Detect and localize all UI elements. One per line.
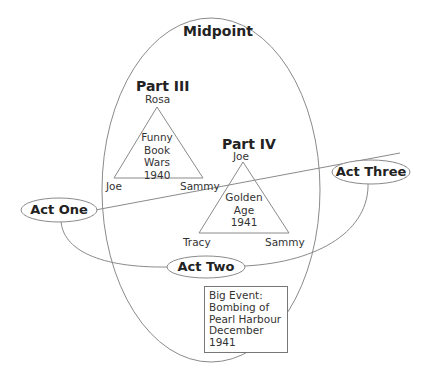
part4-center-line: Age — [224, 204, 264, 217]
act-two-label: Act Two — [167, 259, 245, 274]
part3-center-line: Funny — [138, 131, 176, 144]
midpoint-label: Midpoint — [183, 23, 253, 39]
act-one-to-act-two-curve — [61, 220, 168, 267]
part4-left-character: Tracy — [183, 236, 211, 248]
part3-center-line: Wars — [138, 156, 176, 169]
part4-center-line: 1941 — [224, 216, 264, 229]
act-one-label: Act One — [21, 202, 97, 217]
part4-center-line: Golden — [224, 191, 264, 204]
part3-left-character: Joe — [106, 180, 122, 192]
part4-top-character: Joe — [233, 150, 249, 162]
act-three-label: Act Three — [332, 164, 410, 179]
part4-center-text: Golden Age 1941 — [224, 191, 264, 229]
big-event-line: Bombing of — [209, 302, 283, 314]
part3-center-line: 1940 — [138, 169, 176, 182]
part3-top-character: Rosa — [145, 93, 170, 105]
part3-title: Part III — [136, 78, 189, 94]
part4-right-character: Sammy — [265, 236, 305, 248]
big-event-line: 1941 — [209, 337, 283, 349]
big-event-box: Big Event: Bombing of Pearl Harbour Dece… — [204, 286, 288, 353]
part3-center-text: Funny Book Wars 1940 — [138, 131, 176, 181]
part3-center-line: Book — [138, 144, 176, 157]
part3-right-character: Sammy — [180, 180, 220, 192]
story-structure-diagram: Midpoint Part III Rosa Funny Book Wars 1… — [0, 0, 430, 376]
